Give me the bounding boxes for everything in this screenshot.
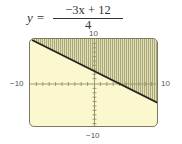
y-axis-min-label: −10 xyxy=(86,131,100,140)
equation-denominator: 4 xyxy=(51,19,125,31)
equation-fraction: −3x + 12 4 xyxy=(51,4,125,31)
y-axis-max-label: 10 xyxy=(89,29,98,38)
equation-numerator: −3x + 12 xyxy=(51,4,125,17)
graph-plot xyxy=(30,39,158,127)
graph-screen xyxy=(29,38,158,127)
x-axis-max-label: 10 xyxy=(161,79,170,88)
equation-lhs: y = xyxy=(27,10,45,26)
x-axis-min-label: −10 xyxy=(10,79,24,88)
